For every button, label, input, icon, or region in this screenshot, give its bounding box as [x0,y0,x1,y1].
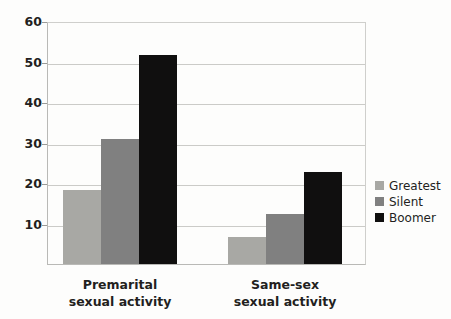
y-tick-label-40: 40 [2,97,42,110]
y-tick-label-10: 10 [2,218,42,231]
legend-item-boomer[interactable]: Boomer [375,210,441,225]
category-label-premarital: Premaritalsexual activity [50,277,190,310]
legend-swatch-boomer [375,213,384,222]
y-tick-label-60: 60 [2,16,42,29]
category-label-samesex: Same-sexsexual activity [215,277,355,310]
gridline-30 [48,145,365,146]
y-tick-label-50: 50 [2,56,42,69]
y-tick-label-20: 20 [2,178,42,191]
legend-label-silent: Silent [389,196,423,208]
category-label-premarital-line1: Premarital [83,277,157,292]
bar-samesex-boomer [304,172,342,264]
legend-swatch-greatest [375,181,384,190]
bar-premarital-silent [101,139,139,264]
legend-label-boomer: Boomer [389,212,436,224]
y-axis: 60 50 40 30 20 10 [0,22,42,265]
y-tick-label-30: 30 [2,137,42,150]
gridline-40 [48,104,365,105]
bar-premarital-boomer [139,55,177,264]
plot-area [47,22,366,265]
legend-label-greatest: Greatest [389,180,441,192]
bar-chart: 60 50 40 30 20 10 Premaritalsexual activ… [0,0,451,319]
legend: Greatest Silent Boomer [375,178,441,226]
legend-item-greatest[interactable]: Greatest [375,178,441,193]
gridline-50 [48,64,365,65]
legend-item-silent[interactable]: Silent [375,194,441,209]
bar-premarital-greatest [63,190,101,264]
legend-swatch-silent [375,197,384,206]
bar-samesex-greatest [228,237,266,264]
category-label-premarital-line2: sexual activity [69,294,172,309]
category-label-samesex-line1: Same-sex [251,277,319,292]
bar-samesex-silent [266,214,304,264]
category-label-samesex-line2: sexual activity [234,294,337,309]
